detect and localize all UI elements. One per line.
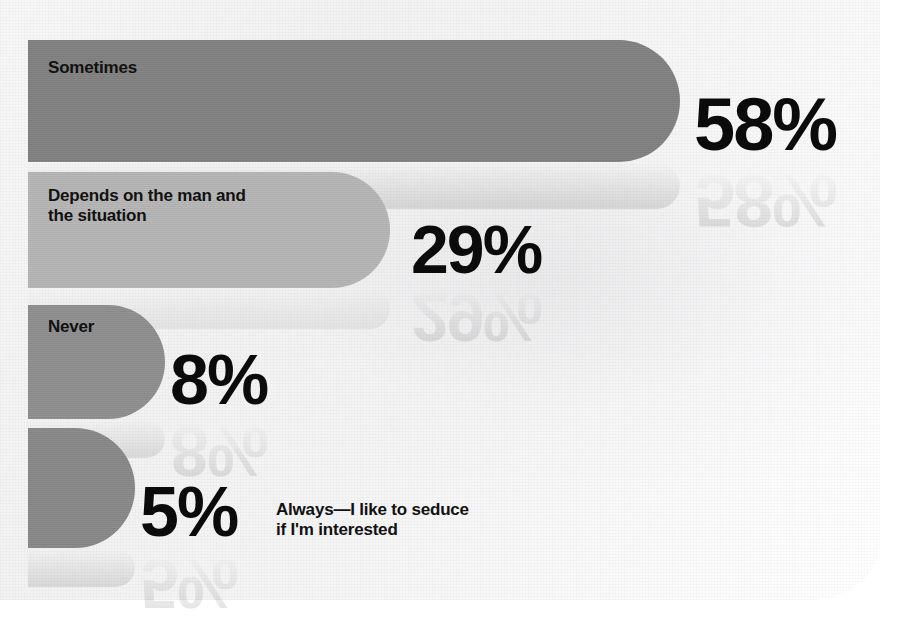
bar-label-depends: Depends on the man and the situation	[48, 186, 246, 226]
bar-label-always: Always—I like to seduce if I'm intereste…	[276, 500, 469, 541]
value-label-sometimes: 58%	[694, 88, 836, 162]
chart-page: Sometimes 58% 58% Depends on the man and…	[0, 0, 906, 619]
value-label-always: 5%	[140, 477, 237, 547]
value-label-depends: 29%	[411, 215, 541, 283]
value-label-never: 8%	[170, 345, 267, 415]
bar-label-never: Never	[48, 317, 94, 337]
bar-row-never: Never	[28, 305, 888, 421]
bar-always	[28, 428, 135, 548]
bar-label-sometimes: Sometimes	[48, 58, 137, 78]
